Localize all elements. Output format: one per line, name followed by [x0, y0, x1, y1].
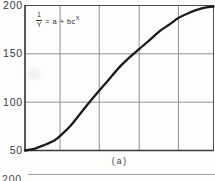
figure-panel-a: 20015010050 1 Y = a + bcX (a) 200	[0, 0, 215, 181]
growth-curve-plot	[0, 0, 215, 181]
fraction-denominator: Y	[36, 20, 42, 29]
fraction-numerator: 1	[36, 12, 42, 20]
scan-smudge	[22, 66, 44, 82]
panel-caption: (a)	[101, 156, 139, 166]
next-panel-preview: 200	[0, 172, 215, 181]
y-tick-label: 100	[0, 97, 23, 108]
growth-curve	[25, 7, 214, 151]
equation-fraction: 1 Y	[36, 12, 42, 28]
equation-rhs-text: = a + bc	[45, 17, 75, 26]
next-panel-top-rule	[28, 174, 215, 175]
equation-exponent: X	[76, 15, 80, 21]
y-tick-label: 150	[0, 48, 23, 59]
equation-annotation: 1 Y = a + bcX	[36, 12, 79, 28]
y-tick-label: 50	[0, 145, 23, 156]
next-panel-ytick-label: 200	[2, 174, 22, 181]
equation-rhs: = a + bcX	[45, 14, 79, 26]
y-tick-label: 200	[0, 0, 23, 11]
